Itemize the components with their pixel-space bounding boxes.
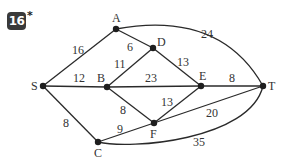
- node-label-F: F: [150, 127, 157, 141]
- edge-B-F: [107, 87, 154, 123]
- node-D: [150, 45, 156, 51]
- weight-S-B: 12: [73, 71, 85, 85]
- weight-A-T: 24: [201, 27, 213, 41]
- node-labels: S A B C D E F T: [31, 11, 276, 159]
- node-T: [260, 83, 266, 89]
- node-label-C: C: [94, 146, 102, 159]
- edge-S-C: [43, 86, 98, 142]
- weight-D-E: 13: [177, 55, 189, 69]
- node-C: [95, 139, 101, 145]
- edge-B-E: [107, 86, 201, 87]
- node-F: [151, 120, 157, 126]
- weight-B-F: 8: [120, 103, 126, 117]
- node-label-E: E: [199, 69, 206, 83]
- weight-A-D: 6: [127, 40, 133, 54]
- network-diagram: S A B C D E F T 16 12 8 6 24 11 23 8 13 …: [0, 0, 295, 159]
- weight-S-C: 8: [63, 116, 69, 130]
- node-label-T: T: [268, 79, 276, 93]
- node-label-B: B: [97, 71, 105, 85]
- weight-B-D: 11: [114, 57, 126, 71]
- weight-E-T: 8: [229, 71, 235, 85]
- weight-S-A: 16: [72, 43, 84, 57]
- weight-E-F: 13: [161, 95, 173, 109]
- edge-S-B: [43, 86, 107, 87]
- weight-C-F: 9: [117, 122, 123, 136]
- edge-A-D: [116, 29, 153, 48]
- weight-C-T: 35: [193, 135, 205, 149]
- node-E: [198, 83, 204, 89]
- weight-F-T: 20: [206, 106, 218, 120]
- node-label-D: D: [157, 35, 166, 49]
- node-S: [40, 83, 46, 89]
- node-label-A: A: [112, 11, 121, 25]
- edge-C-F: [98, 123, 154, 142]
- weight-B-E: 23: [145, 71, 157, 85]
- node-A: [113, 26, 119, 32]
- node-label-S: S: [31, 79, 38, 93]
